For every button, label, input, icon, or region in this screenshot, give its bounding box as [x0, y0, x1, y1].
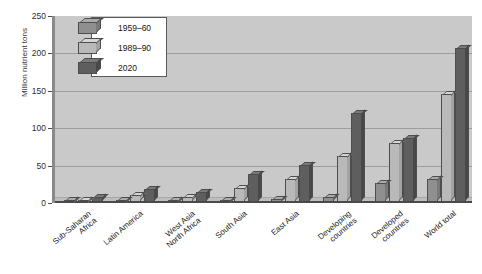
legend-item-2020: 2020: [92, 58, 166, 78]
bar: [248, 174, 259, 201]
bar-column: [455, 48, 466, 201]
bar-top-face: [249, 171, 265, 175]
bar-chart: Million nutrient tons 050100150200250 19…: [0, 0, 482, 274]
legend-label: 1959–60: [118, 23, 151, 33]
bar-side-face: [309, 162, 313, 201]
x-axis-line: [55, 201, 472, 203]
y-axis-tick-label: 100: [16, 123, 46, 133]
bar-top-face: [197, 189, 213, 193]
bar: [116, 200, 127, 202]
bar-column: [248, 174, 259, 201]
bar: [285, 179, 296, 201]
bar-column: [389, 143, 400, 201]
bar: [144, 189, 155, 201]
bar-column: [271, 199, 282, 201]
bar-side-face: [154, 185, 158, 201]
bar-group: [369, 16, 421, 201]
bar: [427, 179, 438, 201]
bar-column: [375, 183, 386, 201]
bar-column: [427, 179, 438, 201]
bar-top-face: [404, 135, 420, 139]
bar: [168, 200, 179, 202]
bar-column: [116, 200, 127, 202]
bar-group: [420, 16, 472, 201]
bar: [389, 143, 400, 201]
bar-side-face: [413, 135, 417, 201]
bar-side-face: [437, 176, 441, 201]
bar: [271, 199, 282, 201]
bar-side-face: [465, 44, 469, 201]
bar-top-face: [456, 45, 472, 49]
y-axis-tick-label: 250: [16, 11, 46, 21]
legend-swatch-icon: [78, 22, 97, 34]
bar-group: [213, 16, 265, 201]
legend-label: 2020: [118, 63, 137, 73]
y-axis-tick-label: 150: [16, 86, 46, 96]
bar-column: [299, 165, 310, 201]
bar-top-face: [352, 110, 368, 114]
legend-item-1989-90: 1989–90: [92, 38, 166, 58]
bar: [351, 113, 362, 201]
bar-group: [265, 16, 317, 201]
y-axis-tick-label: 200: [16, 48, 46, 58]
bar: [299, 165, 310, 201]
bar-side-face: [361, 110, 365, 201]
bar: [441, 94, 452, 201]
bar-side-face: [258, 170, 262, 201]
bar: [64, 200, 75, 202]
bar: [403, 138, 414, 201]
bar-column: [323, 197, 334, 201]
bar-column: [64, 200, 75, 202]
bar: [455, 48, 466, 201]
bar: [323, 197, 334, 201]
bar-column: [441, 94, 452, 201]
bar-top-face: [145, 186, 161, 190]
bar-column: [351, 113, 362, 201]
y-axis-tick-label: 0: [16, 198, 46, 208]
bar-column: [403, 138, 414, 201]
bar-side-face: [347, 152, 351, 201]
bar-column: [220, 200, 231, 202]
bar-column: [78, 200, 89, 202]
chart-legend: 1959–60 1989–90 2020: [91, 17, 167, 77]
bar-group: [162, 16, 214, 201]
bar-column: [234, 188, 245, 201]
legend-swatch-icon: [78, 42, 97, 54]
x-axis-labels: Sub-Saharan AfricaLatin AmericaWest Asia…: [55, 205, 475, 274]
y-axis-tick-label: 50: [16, 161, 46, 171]
bar: [220, 200, 231, 202]
bar-group: [317, 16, 369, 201]
bar: [78, 200, 89, 202]
bar-side-face: [451, 91, 455, 201]
bar-column: [144, 189, 155, 201]
bar-column: [285, 179, 296, 201]
bar: [375, 183, 386, 201]
y-axis-tick-mark: [48, 203, 52, 204]
legend-item-1959-60: 1959–60: [92, 18, 166, 38]
legend-label: 1989–90: [118, 43, 151, 53]
bar-side-face: [399, 140, 403, 201]
bar: [234, 188, 245, 201]
legend-swatch-icon: [78, 62, 97, 74]
bar-column: [168, 200, 179, 202]
